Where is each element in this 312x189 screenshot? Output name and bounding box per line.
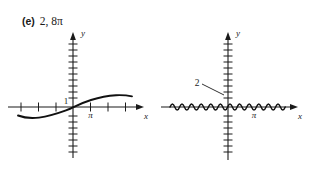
panel-f-x-axis-name: x	[297, 111, 302, 121]
panel-e-x-tick-label-pi: π	[88, 110, 93, 120]
panel-f-graph: π y x 2	[156, 0, 312, 189]
panel-e: (e)2, 8π	[0, 0, 156, 189]
panel-e-graph: 1 π y x	[0, 0, 156, 189]
panel-f: (f) 1 2 , π 2	[156, 0, 312, 189]
panel-f-y-axis-name: y	[235, 28, 240, 38]
panel-f-x-tick-label-pi: π	[252, 110, 257, 120]
panel-f-annotation-leader-line	[202, 84, 224, 95]
panel-f-y-axis	[225, 32, 231, 160]
panel-f-amplitude-annotation: 2	[195, 78, 200, 88]
panel-e-x-axis-name: x	[143, 111, 148, 121]
panel-e-y-axis	[70, 32, 76, 158]
panel-e-y-tick-label-1: 1	[64, 96, 69, 106]
panel-e-y-axis-name: y	[80, 28, 85, 38]
answer-figure: (e)2, 8π	[0, 0, 312, 189]
